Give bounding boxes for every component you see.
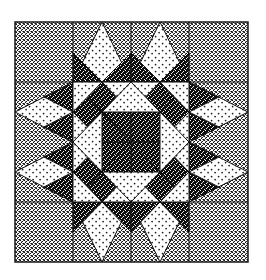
quilt-block: [15, 22, 248, 262]
quilt-block-svg: [0, 0, 266, 280]
quilt-block-figure: [0, 0, 266, 280]
